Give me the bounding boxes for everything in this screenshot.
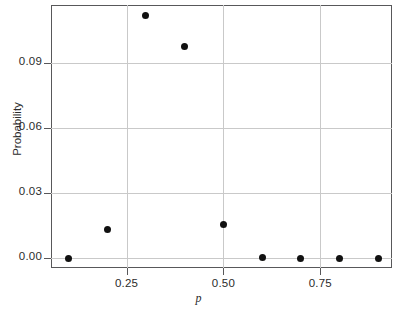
y-tick-label: 0.03 [19, 185, 42, 197]
probability-scatter-chart: 0.000.030.060.09 0.250.500.75 Probabilit… [0, 0, 397, 309]
y-tick-label: 0.00 [19, 250, 42, 262]
x-tick-label: 0.75 [309, 277, 332, 289]
x-tick-label: 0.25 [115, 277, 138, 289]
y-tick-mark [44, 258, 51, 259]
x-tick-mark [127, 268, 128, 275]
x-tick-label: 0.50 [212, 277, 235, 289]
x-tick-mark [223, 268, 224, 275]
x-axis-title: p [0, 291, 397, 306]
y-tick-mark [44, 193, 51, 194]
x-tick-mark [320, 268, 321, 275]
y-tick-mark [44, 128, 51, 129]
y-tick-label: 0.09 [19, 55, 42, 67]
y-tick-mark [44, 63, 51, 64]
plot-frame [51, 5, 392, 268]
y-axis-title: Probability [11, 84, 23, 174]
